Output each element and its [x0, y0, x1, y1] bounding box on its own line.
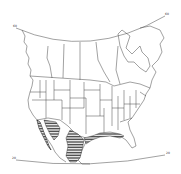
west-coastline	[22, 30, 66, 162]
hatched-region-sonora	[44, 120, 60, 140]
canada-us-border	[30, 76, 150, 88]
latitude-label-bottom-left: 20	[12, 157, 16, 160]
latitude-20-arc	[16, 155, 165, 164]
north-america-map	[0, 0, 181, 174]
latitude-label-top-right: 60	[165, 13, 169, 16]
latitude-label-bottom-right: 20	[166, 152, 170, 155]
east-canada-coast	[140, 26, 164, 88]
hatched-region-gulf-coast	[84, 132, 124, 144]
hatched-region-central-mexico	[66, 130, 84, 162]
latitude-label-top-left: 60	[13, 25, 17, 28]
hudson-bay	[118, 30, 150, 72]
east-coastline	[120, 88, 150, 148]
latitude-60-arc	[16, 16, 165, 41]
